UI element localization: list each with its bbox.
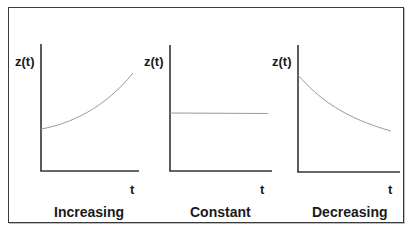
constant-line [170,113,268,114]
y-axis-label: z(t) [15,54,35,69]
panel-caption: Constant [190,204,251,220]
panel-increasing: z(t) t Increasing [15,44,139,220]
panel-constant: z(t) t Constant [144,45,272,220]
panel-caption: Decreasing [312,204,387,220]
x-axis-label: t [130,182,135,197]
y-axis-label: z(t) [272,54,292,69]
y-axis-label: z(t) [144,54,164,69]
panel-decreasing: z(t) t Decreasing [272,45,400,220]
trend-plots: z(t) t Increasing z(t) t Constant z(t) t… [0,0,411,231]
x-axis-label: t [260,182,265,197]
decreasing-curve [298,75,391,131]
x-axis-label: t [388,182,393,197]
panel-caption: Increasing [54,204,124,220]
increasing-curve [41,73,133,129]
